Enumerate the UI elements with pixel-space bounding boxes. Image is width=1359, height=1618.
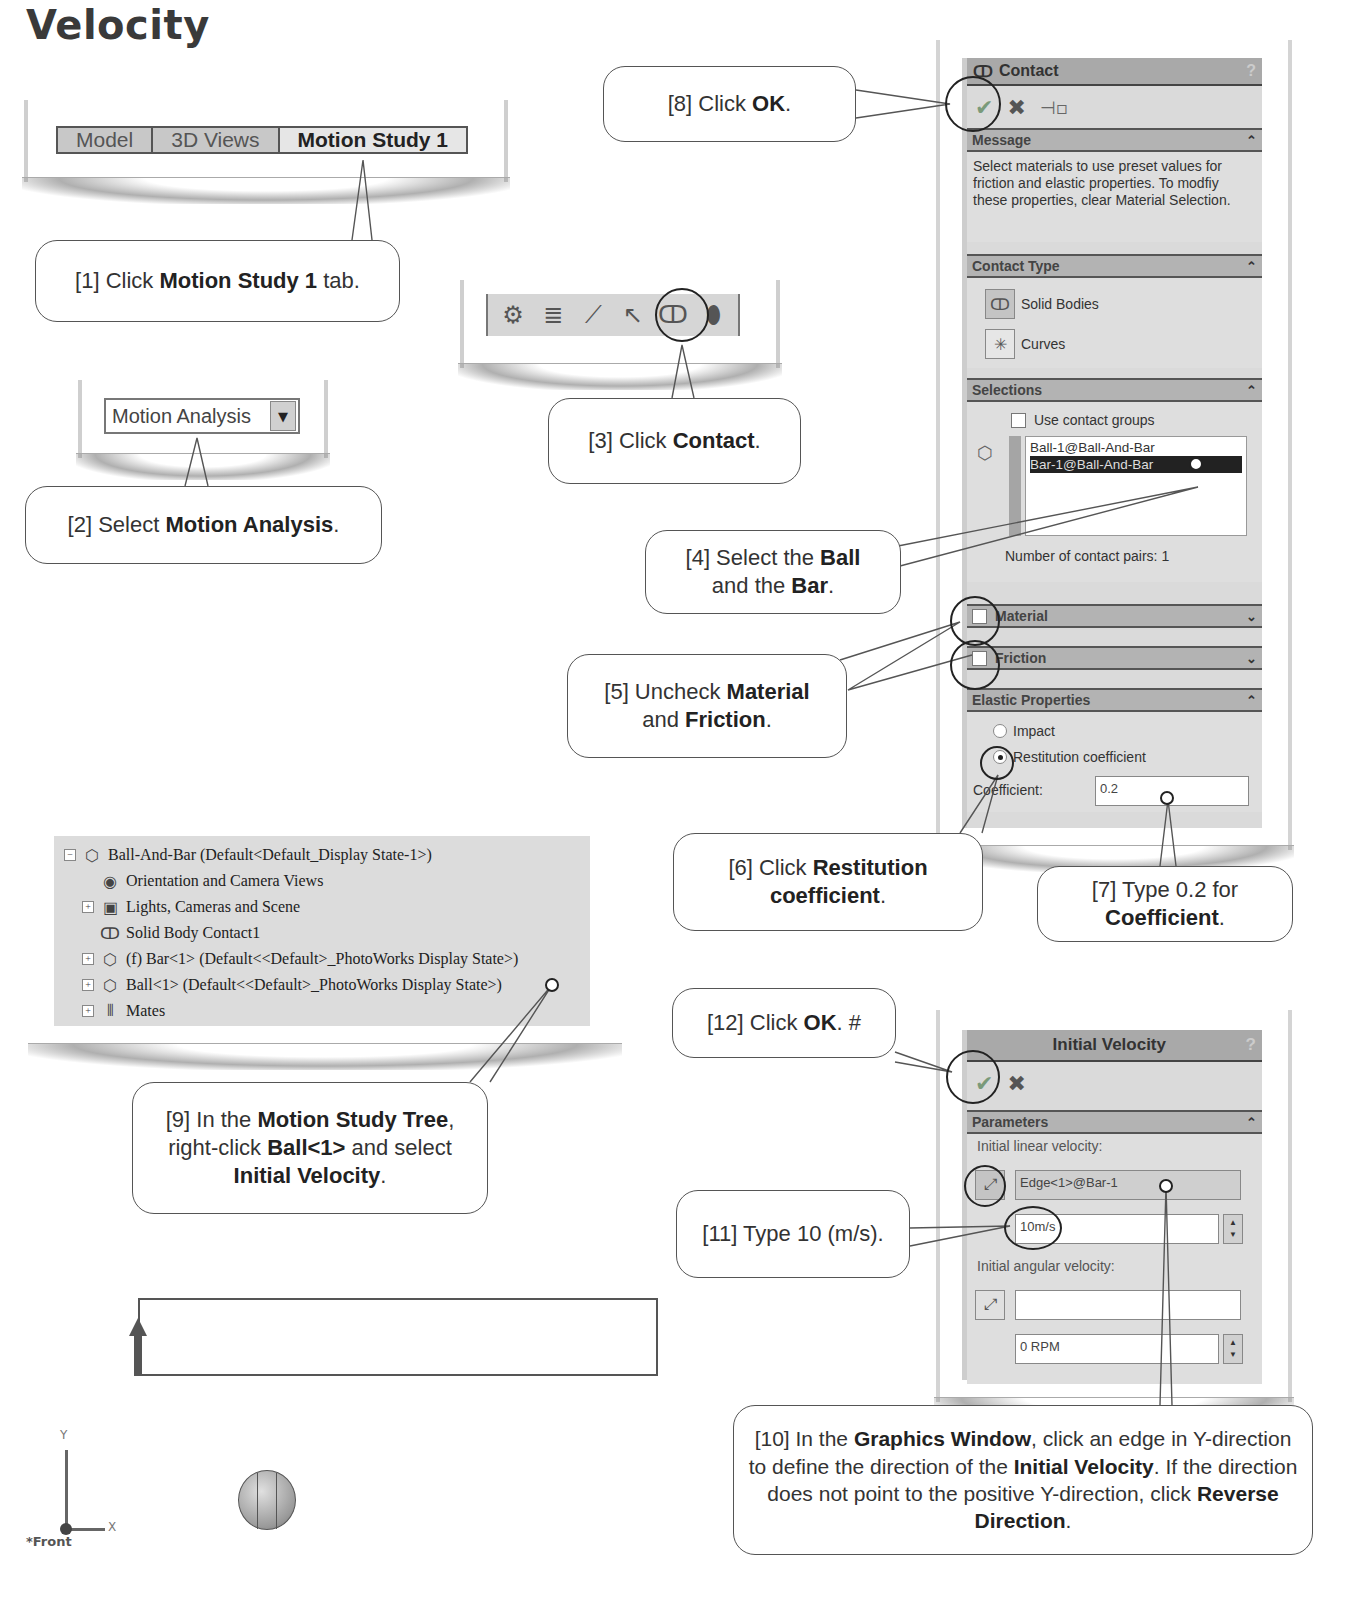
bar-body[interactable]	[138, 1298, 658, 1376]
message-section-header[interactable]: Message ⌃	[967, 128, 1262, 152]
page-title: Velocity	[26, 2, 210, 48]
highlight-circle	[1004, 1206, 1062, 1250]
contact-actions: ✔ ✖ ⊣▫	[967, 86, 1262, 128]
damper-icon[interactable]: ⟋	[578, 299, 608, 331]
tabs-screenshot: Model 3D Views Motion Study 1	[24, 100, 508, 182]
radio-icon[interactable]	[993, 724, 1007, 738]
angular-velocity-spinner[interactable]: ▲ ▼	[1223, 1334, 1243, 1364]
linear-velocity-spinner[interactable]: ▲ ▼	[1223, 1214, 1243, 1244]
list-item[interactable]: Bar-1@Ball-And-Bar	[1030, 456, 1242, 473]
spin-down-icon[interactable]: ▼	[1229, 1229, 1237, 1241]
help-icon[interactable]: ?	[1246, 62, 1256, 80]
spring-icon[interactable]: ≣	[538, 299, 568, 331]
callout-text: .	[828, 573, 834, 598]
contact-panel-title: Contact	[999, 62, 1059, 80]
elastic-section-header[interactable]: Elastic Properties ⌃	[967, 688, 1262, 712]
expand-icon[interactable]: +	[82, 979, 94, 991]
tree-item-label: Solid Body Contact1	[126, 924, 260, 942]
callout-text: .	[333, 512, 339, 537]
expand-icon[interactable]: +	[82, 1005, 94, 1017]
collapse-icon[interactable]: −	[64, 849, 76, 861]
angular-velocity-input[interactable]: 0 RPM	[1015, 1334, 1219, 1364]
callout-text: [5] Uncheck	[604, 679, 726, 704]
tree-item-assembly[interactable]: − ⬡ Ball-And-Bar (Default<Default_Displa…	[64, 842, 580, 868]
selections-section-header[interactable]: Selections ⌃	[967, 378, 1262, 402]
callout-step-5: [5] Uncheck Material and Friction.	[567, 654, 847, 758]
callout-bold: Ball<1>	[267, 1135, 345, 1160]
callout-bold: Initial Velocity	[1014, 1455, 1154, 1478]
study-type-dropdown[interactable]: Motion Analysis ▼	[104, 398, 300, 434]
friction-section-header[interactable]: Friction ⌄	[967, 646, 1262, 670]
parameters-section-header[interactable]: Parameters ⌃	[967, 1110, 1262, 1134]
callout-bold: Initial Velocity	[234, 1163, 381, 1188]
radio-label: Restitution coefficient	[1013, 749, 1146, 765]
tree-item-contact[interactable]: ↀ Solid Body Contact1	[64, 920, 580, 946]
callout-text: [4] Select the	[686, 545, 821, 570]
section-title: Message	[972, 132, 1031, 148]
tab-model[interactable]: Model	[58, 128, 153, 152]
linear-direction-field[interactable]: Edge<1>@Bar-1	[1015, 1170, 1241, 1200]
use-contact-groups[interactable]: Use contact groups	[973, 408, 1256, 432]
mates-icon: ⫴	[100, 1002, 120, 1020]
section-title: Contact Type	[972, 258, 1060, 274]
impact-radio[interactable]: Impact	[973, 718, 1256, 744]
chevron-up-icon[interactable]: ⌃	[1246, 383, 1257, 398]
callout-step-1: [1] Click Motion Study 1 tab.	[35, 240, 400, 322]
callout-text: [9] In the	[166, 1107, 258, 1132]
callout-text: .	[766, 707, 772, 732]
pointer-dot	[1160, 791, 1174, 805]
motor-icon[interactable]: ⚙	[498, 299, 528, 331]
callout-step-10: [10] In the Graphics Window, click an ed…	[733, 1405, 1313, 1555]
ball-body[interactable]	[238, 1470, 296, 1530]
tree-item-mates[interactable]: + ⫴ Mates	[64, 998, 580, 1024]
expand-icon[interactable]: +	[82, 901, 94, 913]
restitution-radio[interactable]: Restitution coefficient	[973, 744, 1256, 770]
chevron-up-icon[interactable]: ⌃	[1246, 259, 1257, 274]
tree-item-bar[interactable]: + ⬡ (f) Bar<1> (Default<<Default>_PhotoW…	[64, 946, 580, 972]
direction-icon[interactable]: ⤢	[975, 1290, 1005, 1320]
chevron-up-icon[interactable]: ⌃	[1246, 693, 1257, 708]
chevron-down-icon[interactable]: ▼	[270, 401, 296, 431]
chevron-up-icon[interactable]: ⌃	[1246, 1115, 1257, 1130]
tree-item-orientation[interactable]: ◉ Orientation and Camera Views	[64, 868, 580, 894]
help-icon[interactable]: ?	[1246, 1035, 1256, 1055]
graphics-window[interactable]: Y X *Front	[20, 1280, 680, 1570]
force-icon[interactable]: ↖	[618, 299, 648, 331]
tree-item-ball[interactable]: + ⬡ Ball<1> (Default<<Default>_PhotoWork…	[64, 972, 580, 998]
solid-bodies-option[interactable]: ↀ Solid Bodies	[985, 284, 1256, 324]
callout-text: . #	[837, 1010, 861, 1035]
callout-step-3: [3] Click Contact.	[548, 398, 801, 484]
spin-up-icon[interactable]: ▲	[1229, 1217, 1237, 1229]
contact-selection-list[interactable]: Ball-1@Ball-And-Bar Bar-1@Ball-And-Bar	[1025, 436, 1247, 536]
callout-text: [1] Click	[75, 268, 159, 293]
callout-text: [2] Select	[68, 512, 166, 537]
initial-velocity-property-manager: Initial Velocity ? ✔ ✖ Parameters ⌃ Init…	[962, 1030, 1262, 1380]
callout-text: .	[380, 1163, 386, 1188]
chevron-down-icon[interactable]: ⌄	[1246, 609, 1257, 624]
tab-3d-views[interactable]: 3D Views	[153, 128, 279, 152]
pin-icon[interactable]: ⊣▫	[1040, 97, 1068, 118]
pointer-dot	[1159, 1179, 1173, 1193]
use-contact-groups-checkbox[interactable]	[1011, 413, 1026, 428]
contact-type-section-header[interactable]: Contact Type ⌃	[967, 254, 1262, 278]
tree-item-lights[interactable]: + ▣ Lights, Cameras and Scene	[64, 894, 580, 920]
list-item[interactable]: Ball-1@Ball-And-Bar	[1030, 439, 1242, 456]
cancel-button[interactable]: ✖	[1007, 95, 1025, 120]
material-section-header[interactable]: Material ⌄	[967, 604, 1262, 628]
angular-direction-field[interactable]	[1015, 1290, 1241, 1320]
tab-motion-study-1[interactable]: Motion Study 1	[280, 128, 467, 152]
curves-option[interactable]: ✳ Curves	[985, 324, 1256, 364]
view-orientation-label: *Front	[26, 1534, 72, 1549]
expand-icon[interactable]: +	[82, 953, 94, 965]
motion-toolbar-screenshot: ⚙ ≣ ⟋ ↖ ↀ ⬮	[460, 280, 780, 368]
chevron-down-icon[interactable]: ⌄	[1246, 651, 1257, 666]
callout-text: tab.	[317, 268, 360, 293]
spin-down-icon[interactable]: ▼	[1229, 1349, 1237, 1361]
bodies-selection-icon: ⬡	[977, 442, 993, 464]
chevron-up-icon[interactable]: ⌃	[1246, 133, 1257, 148]
callout-bold: Motion Analysis	[165, 512, 333, 537]
spin-up-icon[interactable]: ▲	[1229, 1337, 1237, 1349]
velocity-actions: ✔ ✖	[967, 1062, 1262, 1104]
cancel-button[interactable]: ✖	[1007, 1071, 1025, 1096]
pointer-dot	[545, 978, 559, 992]
